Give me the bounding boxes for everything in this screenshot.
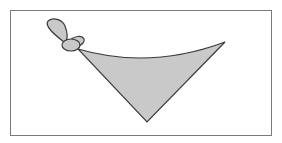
knot-center-icon (62, 39, 80, 51)
bandana-illustration (0, 0, 282, 143)
bandana-cloth (78, 42, 225, 122)
knot-loop-icon (47, 19, 67, 42)
